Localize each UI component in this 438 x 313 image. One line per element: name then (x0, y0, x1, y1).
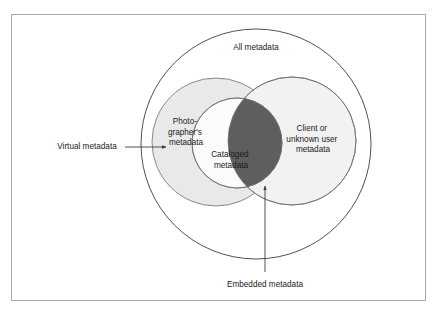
label-photographers-metadata: Photo- grapher's metadata (168, 117, 204, 147)
label-all-metadata: All metadata (233, 43, 279, 52)
label-virtual-metadata: Virtual metadata (57, 142, 117, 151)
figure-root: All metadata Photo- grapher's metadata C… (0, 0, 438, 313)
label-embedded-metadata: Embedded metadata (227, 280, 303, 289)
venn-diagram-canvas: All metadata Photo- grapher's metadata C… (0, 0, 438, 313)
label-cataloged-metadata: Cataloged metadata (211, 150, 251, 170)
